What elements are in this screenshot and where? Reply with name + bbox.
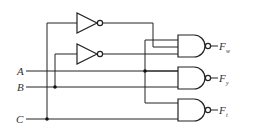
- output-subscript-w: w: [226, 48, 230, 54]
- junction-b: [53, 85, 57, 89]
- inverter-2: [77, 44, 103, 64]
- nand-gate-1: [178, 35, 218, 57]
- junction-a: [143, 69, 147, 73]
- input-label-b: B: [17, 81, 24, 93]
- output-subscript-y: y: [225, 80, 229, 86]
- wire-a-to-nand1: [145, 40, 178, 71]
- inverter-1: [77, 13, 103, 33]
- input-lines: [26, 71, 178, 119]
- input-label-a: A: [16, 65, 24, 77]
- logic-circuit-diagram: A B C F w F y F t: [0, 0, 255, 133]
- wire-inv1-to-nand1: [103, 23, 178, 47]
- output-label-fx: F: [218, 104, 226, 116]
- junction-c: [45, 117, 49, 121]
- output-subscript-x: t: [226, 112, 228, 118]
- nand-gate-3: [178, 99, 218, 121]
- output-label-fw: F: [218, 40, 226, 52]
- input-label-c: C: [16, 113, 24, 125]
- output-label-fy: F: [218, 72, 226, 84]
- nand-gate-2: [178, 67, 218, 89]
